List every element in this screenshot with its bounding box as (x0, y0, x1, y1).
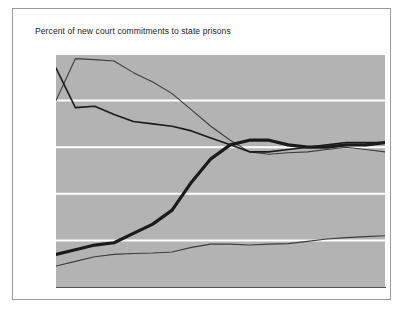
series-line-violent (56, 68, 385, 152)
x-axis-line (56, 287, 386, 288)
chart-card: Percent of new court commitments to stat… (12, 8, 391, 300)
chart-lines (56, 54, 385, 287)
chart-screenshot: Percent of new court commitments to stat… (0, 0, 403, 309)
plot-area (56, 54, 385, 287)
series-line-property (56, 59, 385, 155)
page-title: Percent of new court commitments to stat… (35, 26, 231, 36)
series-line-drug (56, 140, 385, 254)
